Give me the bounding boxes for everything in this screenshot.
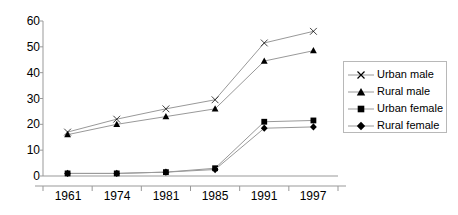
legend-label-rural-male: Rural male bbox=[377, 86, 430, 97]
legend: Urban male Rural male Urban female bbox=[343, 61, 447, 133]
legend-label-urban-female: Urban female bbox=[377, 103, 443, 114]
legend-item-rural-female[interactable]: Rural female bbox=[344, 117, 446, 134]
series-lines bbox=[64, 28, 317, 177]
legend-item-urban-female[interactable]: Urban female bbox=[344, 100, 446, 117]
legend-label-urban-male: Urban male bbox=[377, 69, 434, 80]
axes bbox=[35, 21, 346, 191]
line-chart: 60 50 40 30 20 10 0 1961 1974 1981 1985 … bbox=[0, 0, 458, 215]
legend-item-rural-male[interactable]: Rural male bbox=[344, 83, 446, 100]
square-marker-icon bbox=[348, 103, 374, 115]
triangle-marker-icon bbox=[348, 86, 374, 98]
diamond-marker-icon bbox=[348, 120, 374, 132]
x-marker-icon bbox=[348, 69, 374, 81]
legend-label-rural-female: Rural female bbox=[377, 120, 439, 131]
legend-item-urban-male[interactable]: Urban male bbox=[344, 66, 446, 83]
